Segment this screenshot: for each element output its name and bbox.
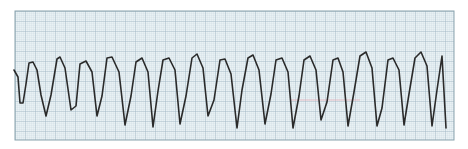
- grid-pattern: [15, 11, 454, 140]
- ecg-strip: [0, 0, 468, 149]
